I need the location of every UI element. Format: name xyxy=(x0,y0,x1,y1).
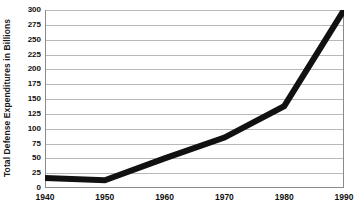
y-axis-tick-label: 225 xyxy=(14,51,41,59)
x-axis-tick-label: 1940 xyxy=(23,192,67,202)
y-axis-tick-label: 50 xyxy=(14,154,41,162)
y-axis-tick-label: 75 xyxy=(14,140,41,148)
y-axis-tick-label: 275 xyxy=(14,21,41,29)
y-axis-tick-label: 300 xyxy=(14,6,41,14)
y-axis-title-text: Total Defense Expenditures in Billions xyxy=(2,19,12,177)
y-axis-title: Total Defense Expenditures in Billions xyxy=(0,0,14,196)
x-axis-tick-label: 1980 xyxy=(262,192,306,202)
y-axis-tick-label: 175 xyxy=(14,80,41,88)
gridlines xyxy=(45,11,344,189)
y-axis-tick-label: 150 xyxy=(14,95,41,103)
data-series-line xyxy=(45,10,344,180)
y-axis-tick-label: 250 xyxy=(14,36,41,44)
y-axis-tick-label: 100 xyxy=(14,125,41,133)
y-axis-tick-label: 0 xyxy=(14,184,41,192)
y-axis-tick-label: 125 xyxy=(14,110,41,118)
x-axis-tick-label: 1970 xyxy=(202,192,246,202)
y-axis-tick-labels: 0255075100125150175200225250275300 xyxy=(14,0,43,196)
x-axis-tick-labels: 194019501960197019801990 xyxy=(0,192,359,212)
plot-area xyxy=(45,10,344,188)
y-axis-tick-label: 200 xyxy=(14,65,41,73)
plot-svg xyxy=(45,10,344,188)
defense-expenditures-line-chart: Total Defense Expenditures in Billions 0… xyxy=(0,0,359,223)
x-axis-tick-label: 1990 xyxy=(322,192,359,202)
x-axis-tick-label: 1950 xyxy=(83,192,127,202)
y-axis-tick-label: 25 xyxy=(14,169,41,177)
x-axis-tick-label: 1960 xyxy=(143,192,187,202)
